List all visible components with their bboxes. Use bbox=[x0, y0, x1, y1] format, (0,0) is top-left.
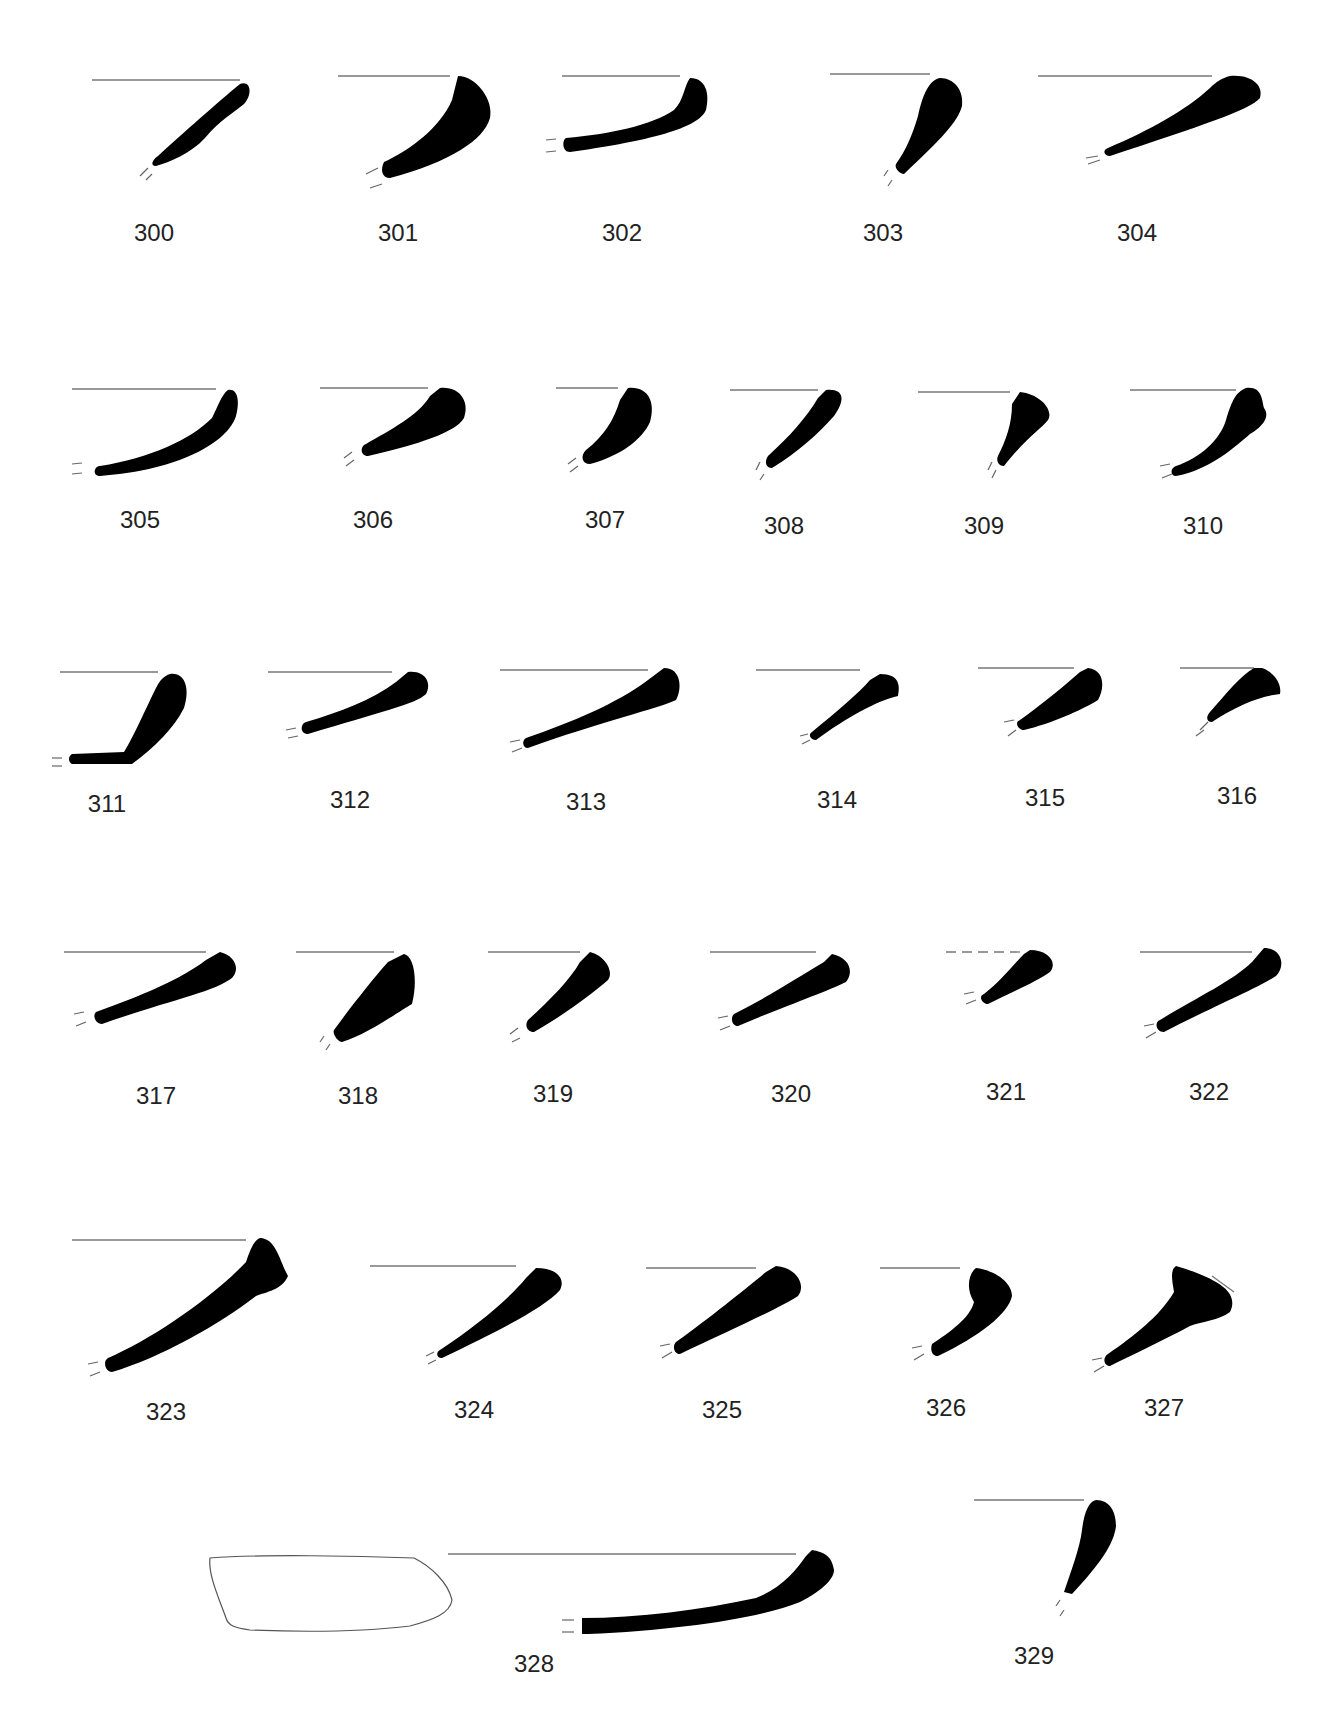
break-mark bbox=[660, 1344, 670, 1346]
profile-section bbox=[526, 952, 610, 1032]
profile-label: 315 bbox=[1025, 784, 1065, 812]
profile-section bbox=[582, 1550, 834, 1634]
profile-label: 300 bbox=[134, 219, 174, 247]
profile-326 bbox=[880, 1268, 1012, 1360]
break-mark bbox=[1088, 160, 1100, 164]
break-mark bbox=[884, 170, 888, 176]
profile-304 bbox=[1038, 76, 1261, 164]
profile-section bbox=[896, 78, 963, 174]
profile-label: 307 bbox=[585, 506, 625, 534]
profile-323 bbox=[72, 1238, 288, 1376]
break-mark bbox=[326, 1044, 330, 1050]
break-mark bbox=[802, 740, 810, 744]
profile-label: 318 bbox=[338, 1082, 378, 1110]
break-mark bbox=[146, 174, 152, 180]
profile-label: 308 bbox=[764, 512, 804, 540]
profile-label: 304 bbox=[1117, 219, 1157, 247]
break-mark bbox=[756, 462, 760, 470]
profile-314 bbox=[756, 670, 899, 744]
profile-308 bbox=[730, 390, 842, 480]
break-mark bbox=[1004, 720, 1014, 722]
break-mark bbox=[1196, 730, 1204, 736]
break-mark bbox=[568, 458, 576, 464]
profile-label: 310 bbox=[1183, 512, 1223, 540]
profile-section bbox=[69, 674, 187, 764]
profile-section bbox=[382, 76, 491, 178]
profile-section bbox=[583, 388, 652, 464]
profile-321 bbox=[946, 950, 1053, 1004]
break-mark bbox=[546, 151, 556, 152]
profile-label: 320 bbox=[771, 1080, 811, 1108]
break-mark bbox=[662, 1352, 672, 1358]
profile-label: 317 bbox=[136, 1082, 176, 1110]
profile-313 bbox=[500, 668, 680, 752]
break-mark bbox=[546, 139, 556, 140]
profile-329 bbox=[974, 1500, 1116, 1616]
profile-label: 306 bbox=[353, 506, 393, 534]
break-mark bbox=[964, 992, 974, 994]
profile-section bbox=[1207, 668, 1280, 722]
profile-307 bbox=[556, 388, 652, 472]
profile-section bbox=[1104, 76, 1260, 156]
profile-label: 329 bbox=[1014, 1642, 1054, 1670]
profile-label: 325 bbox=[702, 1396, 742, 1424]
profile-section bbox=[931, 1268, 1012, 1356]
profile-section bbox=[105, 1238, 288, 1372]
profile-section bbox=[94, 952, 236, 1024]
profile-label: 305 bbox=[120, 506, 160, 534]
break-mark bbox=[760, 474, 764, 480]
break-mark bbox=[366, 168, 378, 174]
profile-label: 303 bbox=[863, 219, 903, 247]
pottery-profile-plate bbox=[0, 0, 1342, 1712]
break-mark bbox=[90, 1372, 100, 1376]
break-mark bbox=[370, 184, 382, 188]
break-mark bbox=[570, 466, 578, 472]
profile-328 bbox=[448, 1550, 834, 1634]
profile-316 bbox=[1180, 668, 1280, 736]
profile-300 bbox=[92, 80, 250, 180]
profile-306 bbox=[320, 388, 466, 466]
break-mark bbox=[718, 1016, 728, 1018]
break-mark bbox=[72, 473, 82, 474]
break-mark bbox=[320, 1036, 324, 1042]
break-mark bbox=[888, 180, 892, 186]
profile-section bbox=[563, 78, 707, 152]
break-mark bbox=[76, 1022, 86, 1026]
profile-section bbox=[1157, 948, 1282, 1032]
profile-label: 324 bbox=[454, 1396, 494, 1424]
profile-317 bbox=[64, 952, 236, 1026]
profile-label: 322 bbox=[1189, 1078, 1229, 1106]
profile-325 bbox=[646, 1266, 801, 1358]
profile-301 bbox=[338, 76, 491, 188]
profile-303 bbox=[830, 74, 962, 186]
break-mark bbox=[1160, 464, 1170, 466]
break-mark bbox=[720, 1026, 730, 1030]
profile-309 bbox=[918, 392, 1049, 478]
profile-label: 313 bbox=[566, 788, 606, 816]
break-mark bbox=[1200, 722, 1208, 730]
profile-section bbox=[1064, 1500, 1116, 1594]
profile-section bbox=[766, 390, 842, 468]
sherd-outline-328 bbox=[210, 1556, 452, 1632]
break-mark bbox=[1144, 1024, 1154, 1026]
profile-324 bbox=[370, 1266, 562, 1364]
profile-section bbox=[523, 668, 679, 748]
profile-label: 311 bbox=[88, 790, 126, 818]
profile-320 bbox=[710, 952, 850, 1030]
break-mark bbox=[1092, 1358, 1102, 1360]
profile-section bbox=[732, 954, 850, 1026]
break-mark bbox=[1086, 156, 1098, 158]
profile-label: 316 bbox=[1217, 782, 1257, 810]
profile-319 bbox=[488, 952, 610, 1042]
profile-label: 327 bbox=[1144, 1394, 1184, 1422]
profile-section bbox=[334, 954, 415, 1042]
profile-section bbox=[997, 392, 1049, 466]
break-mark bbox=[1162, 474, 1172, 478]
break-mark bbox=[512, 1038, 520, 1042]
break-mark bbox=[346, 460, 354, 466]
profile-section bbox=[1104, 1266, 1232, 1366]
break-mark bbox=[1008, 730, 1016, 736]
break-mark bbox=[344, 452, 352, 458]
break-mark bbox=[510, 1028, 518, 1034]
break-mark bbox=[428, 1360, 436, 1364]
